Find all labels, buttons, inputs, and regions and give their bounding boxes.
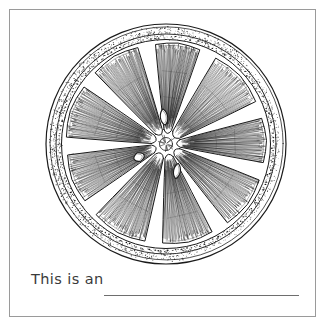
worksheet-page: This is an [0,0,329,327]
answer-blank-line[interactable] [104,295,299,296]
writing-prompt-row: This is an [10,272,317,316]
illustration-area [10,10,317,268]
worksheet-frame: This is an [9,9,316,317]
orange-citrus-cross-section-illustration [10,10,317,268]
prompt-label: This is an [31,272,104,287]
fruit-core [158,134,174,152]
